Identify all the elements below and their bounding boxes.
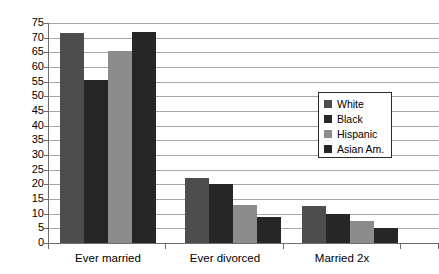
y-axis-tick-label: 75 xyxy=(6,17,44,28)
legend-swatch-white-icon xyxy=(324,100,332,108)
x-tick-3 xyxy=(400,244,401,249)
y-axis-tick-label: 10 xyxy=(6,208,44,219)
y-axis-tick-label: 40 xyxy=(6,120,44,131)
y-axis-tick-label: 35 xyxy=(6,134,44,145)
bar xyxy=(257,217,281,243)
y-axis-tick-label: 45 xyxy=(6,105,44,116)
y-axis-line xyxy=(48,23,49,244)
bar xyxy=(132,32,156,243)
gridline-70 xyxy=(48,38,439,39)
y-tick-15 xyxy=(44,199,48,200)
y-tick-55 xyxy=(44,82,48,83)
y-tick-50 xyxy=(44,96,48,97)
chart-legend: White Black Hispanic Asian Am. xyxy=(318,92,392,158)
y-axis-tick-label: 25 xyxy=(6,164,44,175)
y-axis-tick-label: 60 xyxy=(6,61,44,72)
x-axis-category-label: Married 2x xyxy=(282,252,402,265)
legend-label-white: White xyxy=(337,99,364,110)
y-tick-75 xyxy=(44,23,48,24)
y-tick-60 xyxy=(44,67,48,68)
bar xyxy=(233,205,257,243)
legend-label-black: Black xyxy=(337,114,363,125)
x-tick-2 xyxy=(283,244,284,249)
bar xyxy=(108,51,132,243)
bar xyxy=(302,206,326,243)
x-axis-category-label: Ever married xyxy=(48,252,168,265)
y-tick-35 xyxy=(44,140,48,141)
bar xyxy=(60,33,84,243)
bar xyxy=(374,228,398,243)
y-axis-tick-label: 5 xyxy=(6,222,44,233)
gridline-75 xyxy=(48,23,439,24)
y-axis-tick-label: 15 xyxy=(6,193,44,204)
y-tick-5 xyxy=(44,228,48,229)
bar xyxy=(209,184,233,243)
y-tick-10 xyxy=(44,214,48,215)
y-axis-tick-label: 30 xyxy=(6,149,44,160)
legend-swatch-hispanic-icon xyxy=(324,130,332,138)
legend-item-hispanic: Hispanic xyxy=(324,127,391,141)
y-tick-20 xyxy=(44,184,48,185)
y-axis-tick-label: 65 xyxy=(6,46,44,57)
legend-swatch-asian-icon xyxy=(324,145,332,153)
y-tick-45 xyxy=(44,111,48,112)
bar xyxy=(185,178,209,243)
y-tick-25 xyxy=(44,170,48,171)
y-axis-tick-label: 50 xyxy=(6,90,44,101)
gridline-60 xyxy=(48,67,439,68)
gridline-65 xyxy=(48,52,439,53)
legend-item-white: White xyxy=(324,97,391,111)
y-axis-tick-label: 70 xyxy=(6,32,44,43)
y-tick-70 xyxy=(44,38,48,39)
y-tick-65 xyxy=(44,52,48,53)
legend-label-hispanic: Hispanic xyxy=(337,129,377,140)
legend-item-asian: Asian Am. xyxy=(324,142,391,156)
legend-item-black: Black xyxy=(324,112,391,126)
x-axis-category-label: Ever divorced xyxy=(165,252,285,265)
y-tick-30 xyxy=(44,155,48,156)
y-tick-40 xyxy=(44,126,48,127)
y-axis-tick-label: 55 xyxy=(6,76,44,87)
legend-label-asian: Asian Am. xyxy=(337,144,384,155)
bar xyxy=(350,221,374,243)
legend-swatch-black-icon xyxy=(324,115,332,123)
x-axis-line xyxy=(48,243,439,244)
x-tick-0 xyxy=(48,244,49,249)
bar xyxy=(84,80,108,243)
bar xyxy=(326,214,350,243)
x-tick-1 xyxy=(165,244,166,249)
y-axis-tick-label: 0 xyxy=(6,237,44,248)
y-axis-tick-label: 20 xyxy=(6,178,44,189)
bar-chart: 051015202530354045505560657075 Ever marr… xyxy=(0,0,439,274)
y-axis-labels: 051015202530354045505560657075 xyxy=(0,0,44,274)
